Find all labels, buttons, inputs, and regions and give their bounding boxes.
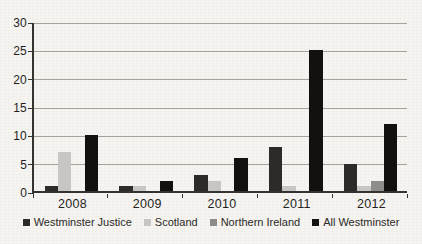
y-axis-tick (28, 23, 33, 24)
x-axis-tick (107, 194, 108, 198)
y-axis-tick-label: 5 (0, 158, 27, 172)
legend-label: Northern Ireland (221, 216, 301, 229)
bar-westminster-justice-2011 (269, 147, 282, 192)
bar-westminster-justice-2010 (194, 175, 207, 192)
legend-label: Scotland (155, 216, 198, 229)
legend-item-westminster-justice: Westminster Justice (23, 216, 132, 229)
legend-swatch-icon (23, 219, 30, 226)
x-axis-tick (407, 194, 408, 198)
gridline (33, 108, 407, 109)
legend-swatch-icon (312, 219, 319, 226)
y-axis-tick-label: 10 (0, 129, 27, 143)
x-axis-tick-label: 2012 (334, 197, 409, 211)
legend-swatch-icon (210, 219, 217, 226)
y-axis-labels: 051015202530 (0, 23, 28, 193)
x-axis-tick-label: 2010 (185, 197, 260, 211)
x-axis-line (32, 191, 407, 193)
legend-item-all-westminster: All Westminster (312, 216, 399, 229)
y-axis-tick (28, 51, 33, 52)
y-axis-tick (28, 108, 33, 109)
y-axis-tick-label: 25 (0, 44, 27, 58)
y-axis-tick-label: 0 (0, 186, 27, 200)
legend: Westminster JusticeScotlandNorthern Irel… (0, 216, 422, 229)
x-axis-tick-label: 2009 (110, 197, 185, 211)
x-axis-tick (33, 194, 34, 198)
legend-label: Westminster Justice (34, 216, 132, 229)
x-axis-labels: 20082009201020112012 (33, 197, 407, 212)
bar-all-westminster-2010 (234, 158, 247, 192)
bar-scotland-2008 (58, 152, 71, 192)
y-axis-tick (28, 136, 33, 137)
x-axis-tick-label: 2011 (259, 197, 334, 211)
chart: 051015202530 20082009201020112012 Westmi… (0, 0, 422, 244)
legend-item-northern-ireland: Northern Ireland (210, 216, 301, 229)
y-axis-tick (28, 164, 33, 165)
y-axis-tick-label: 15 (0, 101, 27, 115)
bar-all-westminster-2008 (85, 135, 98, 192)
x-axis-tick-label: 2008 (35, 197, 110, 211)
y-axis-line (32, 23, 34, 194)
y-axis-tick-label: 20 (0, 73, 27, 87)
x-axis-tick (332, 194, 333, 198)
gridline (33, 23, 407, 24)
bar-westminster-justice-2012 (344, 164, 357, 192)
x-axis-tick (257, 194, 258, 198)
y-axis-tick (28, 79, 33, 80)
gridline (33, 79, 407, 80)
y-axis-tick-label: 30 (0, 16, 27, 30)
x-axis-tick (182, 194, 183, 198)
legend-swatch-icon (144, 219, 151, 226)
legend-item-scotland: Scotland (144, 216, 198, 229)
legend-label: All Westminster (323, 216, 399, 229)
plot-area (33, 23, 407, 193)
bar-all-westminster-2011 (309, 50, 322, 192)
gridline (33, 51, 407, 52)
bar-all-westminster-2012 (384, 124, 397, 192)
